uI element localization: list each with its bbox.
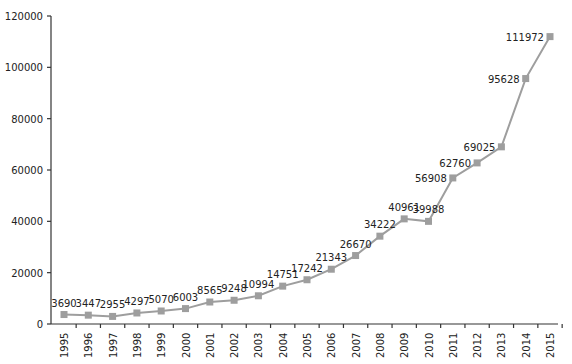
- data-label: 8565: [197, 285, 222, 296]
- x-tick-label: 2002: [229, 333, 240, 358]
- data-point-marker: [158, 307, 165, 314]
- data-label: 2955: [100, 299, 125, 310]
- data-point-marker: [109, 313, 116, 320]
- x-tick-label: 2000: [181, 333, 192, 358]
- data-point-marker: [547, 33, 554, 40]
- x-tick-label: 2003: [253, 333, 264, 358]
- data-label: 3690: [51, 298, 76, 309]
- data-label: 6003: [173, 292, 198, 303]
- data-label: 69025: [464, 142, 496, 153]
- data-point-marker: [522, 75, 529, 82]
- data-point-marker: [425, 218, 432, 225]
- x-tick-label: 2009: [399, 333, 410, 358]
- y-axis: 020000400006000080000100000120000: [5, 11, 51, 330]
- y-tick-label: 100000: [5, 62, 43, 73]
- y-tick-label: 40000: [11, 216, 43, 227]
- data-point-marker: [85, 312, 92, 319]
- data-point-marker: [474, 159, 481, 166]
- x-tick-label: 1999: [156, 333, 167, 358]
- x-tick-label: 2013: [496, 333, 507, 358]
- series-line: [64, 37, 550, 317]
- data-point-marker: [61, 311, 68, 318]
- data-label: 95628: [488, 74, 520, 85]
- data-label: 39988: [413, 204, 445, 215]
- y-tick-label: 0: [37, 319, 43, 330]
- x-tick-label: 1995: [59, 333, 70, 358]
- data-point-marker: [376, 233, 383, 240]
- y-tick-label: 60000: [11, 165, 43, 176]
- x-axis: 1995199619971998199920002001200220032004…: [51, 324, 562, 358]
- x-tick-label: 2014: [521, 333, 532, 358]
- data-point-marker: [182, 305, 189, 312]
- x-tick-label: 2015: [545, 333, 556, 358]
- data-point-marker: [133, 309, 140, 316]
- data-point-marker: [231, 297, 238, 304]
- x-tick-label: 2005: [302, 333, 313, 358]
- data-label: 21343: [315, 252, 347, 263]
- y-tick-label: 80000: [11, 114, 43, 125]
- x-tick-label: 2007: [351, 333, 362, 358]
- x-tick-label: 1998: [132, 333, 143, 358]
- data-label: 17242: [291, 263, 323, 274]
- x-tick-label: 2006: [326, 333, 337, 358]
- data-point-marker: [328, 266, 335, 273]
- data-point-marker: [352, 252, 359, 259]
- x-tick-label: 1996: [83, 333, 94, 358]
- data-label: 34222: [364, 219, 396, 230]
- x-tick-label: 2008: [375, 333, 386, 358]
- y-tick-label: 120000: [5, 11, 43, 22]
- x-tick-label: 1997: [108, 333, 119, 358]
- x-tick-label: 2010: [424, 333, 435, 358]
- data-label: 62760: [439, 158, 471, 169]
- data-label: 4297: [124, 296, 149, 307]
- data-point-marker: [498, 143, 505, 150]
- data-labels: 3690344729554297507060038565924810994147…: [51, 32, 544, 311]
- data-point-marker: [206, 299, 213, 306]
- x-tick-label: 2004: [278, 333, 289, 358]
- data-point-marker: [255, 292, 262, 299]
- x-tick-label: 2001: [205, 333, 216, 358]
- data-label: 3447: [76, 298, 101, 309]
- data-label: 10994: [242, 279, 274, 290]
- x-tick-label: 2012: [472, 333, 483, 358]
- data-point-marker: [279, 283, 286, 290]
- data-label: 111972: [506, 32, 544, 43]
- data-point-marker: [449, 174, 456, 181]
- data-point-marker: [304, 276, 311, 283]
- y-tick-label: 20000: [11, 268, 43, 279]
- data-point-marker: [401, 215, 408, 222]
- data-label: 56908: [415, 173, 447, 184]
- data-label: 5070: [148, 294, 173, 305]
- x-tick-label: 2011: [448, 333, 459, 358]
- data-series: [61, 33, 554, 320]
- data-label: 26670: [340, 239, 372, 250]
- line-chart: 020000400006000080000100000120000 199519…: [0, 0, 572, 364]
